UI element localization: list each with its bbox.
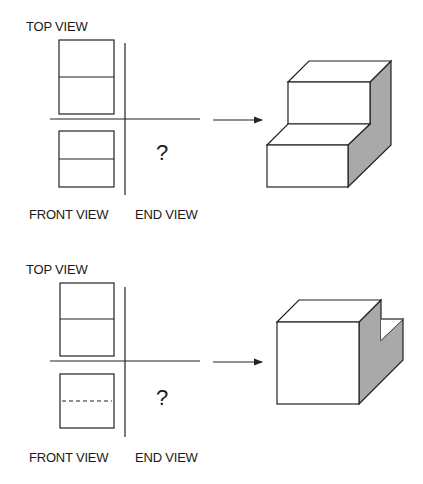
problem-1-orthographic [50,40,262,195]
front-view-label: FRONT VIEW [29,450,108,465]
end-view-label: END VIEW [135,450,198,465]
problem-1-isometric [267,61,391,187]
unknown-end-view-mark: ? [156,140,168,166]
end-view-label: END VIEW [135,207,198,222]
problem-2-orthographic [50,283,262,437]
top-view-label: TOP VIEW [26,262,88,277]
diagram-canvas [0,0,423,484]
top-view-label: TOP VIEW [26,19,88,34]
unknown-end-view-mark: ? [156,385,168,411]
front-view-label: FRONT VIEW [29,207,108,222]
problem-2-isometric [277,300,403,404]
